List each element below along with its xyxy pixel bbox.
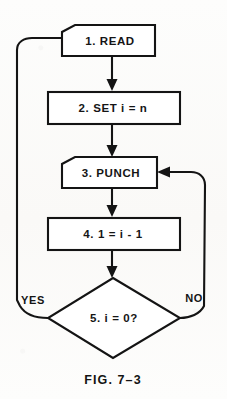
no-branch-label: NO: [185, 292, 203, 304]
node-read[interactable]: 1. READ: [62, 25, 155, 56]
figure-page: 1. READ 2. SET i = n 3. PUNCH: [0, 0, 227, 399]
node-set[interactable]: 2. SET i = n: [48, 92, 180, 124]
decrement-label: 4. 1 = i - 1: [83, 228, 142, 240]
yes-branch-label: YES: [21, 294, 45, 306]
test-label: 5. i = 0?: [90, 312, 138, 324]
punch-label: 3. PUNCH: [82, 167, 140, 179]
edge-read-to-set: [107, 56, 118, 91]
arrowhead-into-punch: [157, 167, 170, 178]
read-label: 1. READ: [85, 35, 135, 47]
edge-decrement-to-test: [107, 250, 118, 278]
node-test[interactable]: 5. i = 0?: [48, 278, 180, 358]
figure-caption: FIG. 7–3: [84, 373, 141, 387]
set-label: 2. SET i = n: [79, 102, 148, 114]
flowchart-diagram: 1. READ 2. SET i = n 3. PUNCH: [0, 0, 227, 399]
edge-punch-to-decrement: [107, 188, 118, 217]
node-decrement[interactable]: 4. 1 = i - 1: [48, 218, 180, 250]
edge-set-to-punch: [107, 124, 118, 157]
node-punch[interactable]: 3. PUNCH: [62, 157, 157, 188]
